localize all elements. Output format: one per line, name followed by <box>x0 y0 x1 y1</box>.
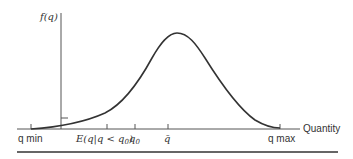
label-qbar: q̄ <box>164 133 170 144</box>
label-q0: q0 <box>129 133 140 146</box>
label-qmin: q min <box>18 133 42 144</box>
x-axis-label: Quantity <box>303 123 340 134</box>
density-diagram: f(q) Quantity q min E(q|q < q0) q0 q̄ q … <box>0 0 353 159</box>
y-axis-label: f(q) <box>39 11 58 22</box>
label-qmax: q max <box>268 133 295 144</box>
label-eq: E(q|q < q0) <box>75 133 133 146</box>
density-curve <box>31 33 280 129</box>
